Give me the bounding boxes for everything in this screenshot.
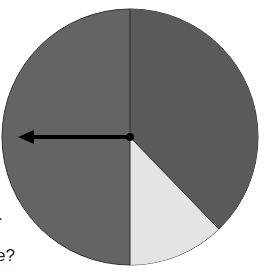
text-fragment-period: .: [0, 205, 3, 225]
spinner-diagram: [0, 0, 265, 275]
text-fragment-question: e?: [0, 246, 15, 266]
spinner-pivot: [126, 133, 134, 141]
